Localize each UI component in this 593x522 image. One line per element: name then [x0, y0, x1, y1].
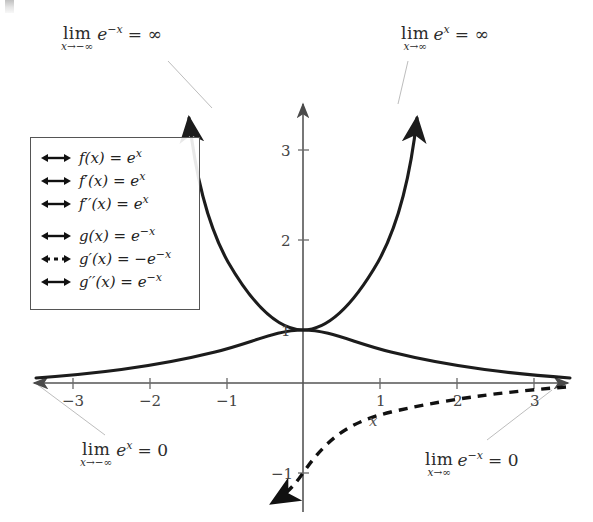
fn-name: g [79, 273, 89, 291]
legend-label-g-prime: g′(x) = −e−x [79, 248, 171, 268]
lim-subscript: x→∞ [425, 467, 454, 478]
y-tick-label-3: 3 [281, 142, 291, 160]
leader-top-left [168, 61, 212, 108]
double-arrow-solid-icon [39, 196, 73, 210]
leader-bottom-right [487, 390, 552, 440]
limit-annotation-top-left: lim x→−∞ e−x= ∞ [61, 24, 162, 52]
fn-base: e [127, 149, 136, 167]
lim-subscript: x→−∞ [61, 41, 93, 52]
x-tick-label--3: −3 [62, 392, 84, 410]
lim-subscript: x→−∞ [80, 457, 112, 468]
limit-operator-group: lim x→∞ [425, 451, 454, 478]
fn-base: e [131, 227, 140, 245]
fn-exponent: x [136, 147, 142, 160]
fn-arg: (x) = [85, 149, 123, 167]
exponential-function-figure: −3 −2 −1 1 2 3 3 2 1 −1 x lim x→−∞ e−x= … [0, 0, 593, 522]
expr-tail: = 0 [138, 440, 168, 460]
expr-base: e [97, 24, 107, 44]
expr-exponent: x [444, 23, 450, 36]
expr-tail: = 0 [488, 450, 518, 470]
expr-tail: = ∞ [455, 24, 489, 44]
legend-item-g: g(x) = e−x [39, 223, 191, 246]
lim-subscript: x→∞ [401, 41, 430, 52]
x-tick-label--1: −1 [216, 392, 238, 410]
expr-exponent: x [126, 439, 132, 452]
lim-expression: e−x= 0 [458, 450, 519, 478]
x-tick-label--2: −2 [139, 392, 161, 410]
legend-item-g-prime: g′(x) = −e−x [39, 246, 191, 269]
expr-exponent: −x [107, 23, 122, 36]
fn-exponent: −x [156, 248, 171, 261]
legend-item-f-prime: f′(x) = ex [39, 168, 191, 191]
fn-exponent: x [139, 170, 145, 183]
fn-name: g [79, 250, 89, 268]
legend-label-g: g(x) = e−x [79, 225, 155, 245]
legend-item-g-double-prime: g′′(x) = e−x [39, 269, 191, 292]
double-arrow-solid-icon [39, 274, 73, 288]
lim-expression: ex= 0 [116, 440, 168, 468]
expr-tail: = ∞ [128, 24, 162, 44]
y-tick-label-1: 1 [281, 322, 291, 340]
lim-expression: e−x= ∞ [97, 24, 161, 52]
limit-annotation-bottom-left: lim x→−∞ ex= 0 [80, 440, 168, 468]
legend-label-f-double-prime: f′′(x) = ex [79, 193, 149, 213]
curve-g-prime-neg-exp [272, 387, 566, 503]
legend-item-f: f(x) = ex [39, 145, 191, 168]
double-arrow-dashed-icon [39, 251, 73, 265]
fn-arg: (x) = [91, 195, 129, 213]
double-arrow-solid-icon [39, 173, 73, 187]
limit-annotation-top-right: lim x→∞ ex= ∞ [401, 24, 489, 52]
fn-arg: (x) = [88, 172, 126, 190]
y-tick-label-2: 2 [281, 232, 291, 250]
x-tick-label-3: 3 [530, 392, 540, 410]
fn-name: g [79, 227, 89, 245]
fn-base: e [138, 273, 147, 291]
expr-base: e [434, 24, 444, 44]
double-arrow-solid-icon [39, 150, 73, 164]
expr-exponent: −x [468, 449, 483, 462]
double-arrow-solid-icon [39, 228, 73, 242]
fn-neg: − [134, 250, 147, 268]
leader-top-right [398, 61, 408, 104]
fn-arg: (x) = [92, 250, 130, 268]
limit-operator-group: lim x→∞ [401, 25, 430, 52]
x-axis-label: x [369, 412, 377, 430]
legend-label-f-prime: f′(x) = ex [79, 170, 145, 190]
limit-operator-group: lim x→−∞ [61, 25, 93, 52]
limit-operator-group: lim x→−∞ [80, 441, 112, 468]
legend-label-f: f(x) = ex [79, 147, 142, 167]
fn-exponent: x [143, 193, 149, 206]
expr-base: e [458, 450, 468, 470]
lim-expression: ex= ∞ [434, 24, 489, 52]
fn-base: e [130, 172, 139, 190]
x-tick-label-2: 2 [453, 392, 463, 410]
curve-g-exp-neg-x [189, 118, 570, 378]
fn-exponent: −x [140, 225, 155, 238]
fn-base: e [134, 195, 143, 213]
legend-label-g-double-prime: g′′(x) = e−x [79, 271, 162, 291]
fn-arg: (x) = [89, 227, 127, 245]
fn-exponent: −x [147, 271, 162, 284]
y-tick-label--1: −1 [271, 465, 293, 483]
legend-item-f-double-prime: f′′(x) = ex [39, 191, 191, 214]
fn-arg: (x) = [95, 273, 133, 291]
expr-base: e [116, 440, 126, 460]
legend-box: f(x) = ex f′(x) = ex f′′(x) = ex [30, 137, 200, 310]
limit-annotation-bottom-right: lim x→∞ e−x= 0 [425, 450, 518, 478]
x-tick-label-1: 1 [376, 392, 386, 410]
fn-base: e [147, 250, 156, 268]
